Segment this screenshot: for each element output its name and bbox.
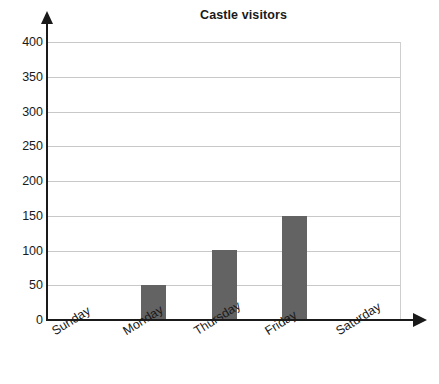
- y-axis-tick-label: 150: [1, 210, 43, 223]
- gridline: [47, 77, 400, 78]
- y-axis-tick-label: 400: [1, 36, 43, 49]
- chart-title: Castle visitors: [0, 8, 439, 22]
- y-axis-arrow-icon: [41, 11, 53, 24]
- bar: [282, 216, 307, 320]
- bar: [141, 285, 166, 320]
- y-axis-tick-label: 0: [1, 314, 43, 327]
- y-axis-tick-label: 350: [1, 71, 43, 84]
- plot-area: [47, 42, 401, 320]
- gridline: [47, 42, 400, 43]
- y-axis-tick-label: 200: [1, 175, 43, 188]
- bar: [212, 250, 237, 320]
- x-axis-line: [46, 319, 415, 321]
- gridline: [47, 112, 400, 113]
- gridline: [47, 216, 400, 217]
- chart-container: Castle visitors 400350300250200150100500…: [0, 0, 439, 384]
- y-axis-tick-label: 300: [1, 105, 43, 118]
- y-axis-tick-labels: 400350300250200150100500: [0, 0, 43, 384]
- y-axis-tick-label: 100: [1, 244, 43, 257]
- gridline: [47, 181, 400, 182]
- y-axis-tick-label: 250: [1, 140, 43, 153]
- gridline: [47, 146, 400, 147]
- y-axis-line: [46, 22, 48, 321]
- x-axis-arrow-icon: [413, 313, 427, 327]
- y-axis-tick-label: 50: [1, 279, 43, 292]
